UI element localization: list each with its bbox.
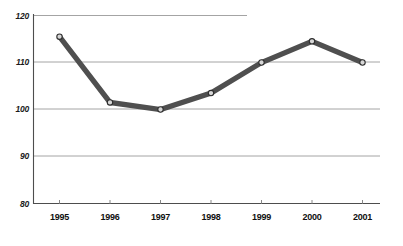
data-point-1999 (259, 60, 264, 65)
y-tick-label-100: 100 (15, 104, 29, 114)
y-tick-label-90: 90 (20, 151, 30, 161)
line-chart: 120 110 100 90 80 1995 1996 1997 1998 19… (0, 0, 403, 246)
x-tick-label-1999: 1999 (252, 212, 271, 222)
x-tick-label-2001: 2001 (353, 212, 372, 222)
x-tick-label-2000: 2000 (303, 212, 322, 222)
x-tick-label-1997: 1997 (151, 212, 170, 222)
data-point-1996 (107, 100, 112, 105)
x-tick-label-1995: 1995 (50, 212, 69, 222)
x-tick-label-1998: 1998 (202, 212, 221, 222)
data-point-1998 (208, 90, 213, 95)
data-point-2000 (309, 39, 314, 44)
data-point-1997 (158, 107, 163, 112)
data-point-1995 (57, 34, 62, 39)
x-axis-labels: 1995 1996 1997 1998 1999 2000 2001 (50, 212, 372, 222)
gridlines (33, 16, 380, 157)
x-tick-label-1996: 1996 (101, 212, 120, 222)
data-series-line (60, 37, 363, 110)
y-axis-labels: 120 110 100 90 80 (15, 11, 29, 209)
y-tick-label-120: 120 (15, 11, 29, 21)
y-tick-label-80: 80 (20, 199, 30, 209)
data-point-2001 (360, 60, 365, 65)
y-tick-label-110: 110 (16, 57, 29, 67)
chart-plot-area: 120 110 100 90 80 1995 1996 1997 1998 19… (0, 0, 403, 246)
